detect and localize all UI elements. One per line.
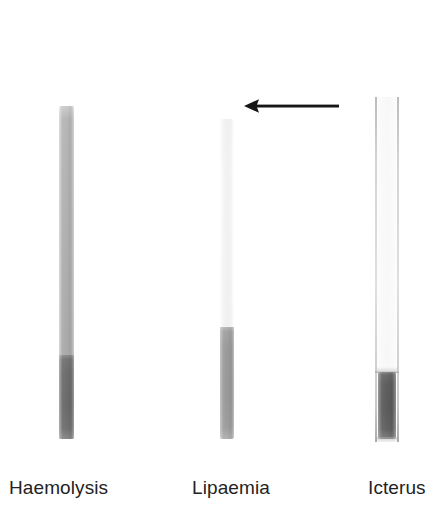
sample-tube-haemolysis — [59, 106, 74, 439]
tube-glass-wall-left — [375, 97, 377, 442]
sample-tube-lipaemia — [220, 119, 234, 439]
tube-glass-wall-right — [397, 97, 399, 442]
caption-lipaemia: Lipaemia — [192, 476, 270, 500]
cell-layer-lipaemia — [220, 327, 234, 439]
tube-base-icterus — [377, 437, 397, 442]
cell-layer-haemolysis — [59, 355, 74, 439]
sample-tube-icterus — [375, 97, 399, 442]
caption-haemolysis: Haemolysis — [9, 476, 108, 500]
caption-icterus: Icterus — [368, 476, 426, 500]
specimen-interference-figure: Haemolysis Lipaemia Icterus — [0, 0, 446, 521]
cell-layer-icterus — [378, 372, 396, 439]
left-arrow-icon — [240, 94, 342, 118]
